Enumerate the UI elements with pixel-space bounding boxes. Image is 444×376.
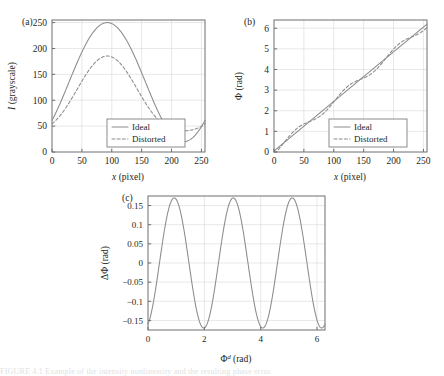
- panel-a-xtick: 150: [135, 156, 150, 166]
- panel-b-tag: (b): [244, 17, 255, 28]
- panel-a-ytick: 50: [38, 121, 48, 131]
- panel-b-legend-label-ideal: Ideal: [354, 122, 372, 132]
- panel-a-ytick: 100: [33, 96, 48, 106]
- panel-c-yaxis-label: ΔΦ (rad): [100, 246, 111, 280]
- panel-c-xtick: 0: [146, 334, 151, 344]
- panel-a-intensity-plot: 050100150200250050100150200250 (a) x (pi…: [0, 0, 222, 188]
- figure-container: 050100150200250050100150200250 (a) x (pi…: [0, 0, 444, 376]
- panel-c-gridlines: [148, 196, 325, 330]
- panel-a-xtick: 0: [50, 156, 55, 166]
- figure-caption-fragment: FIGURE 4.1 Example of the intensity nonl…: [0, 367, 444, 376]
- panel-a-xtick: 250: [194, 156, 209, 166]
- panel-c-svg: (c) Φd (rad) ΔΦ (rad) 02460.150.10.050−0…: [60, 186, 390, 376]
- panel-a-yaxis-label: I (grayscale): [7, 62, 18, 111]
- panel-b-ytick: 1: [264, 127, 269, 137]
- panel-b-yaxis-label: Φ (rad): [234, 72, 245, 100]
- panel-a-xtick: 50: [77, 156, 87, 166]
- panel-b-ytick: 2: [264, 106, 269, 116]
- panel-a-ytick: 0: [42, 147, 47, 157]
- panel-b-xtick: 200: [386, 156, 401, 166]
- panel-b-xaxis-label: x (pixel): [333, 172, 366, 183]
- panel-a-xtick: 200: [164, 156, 179, 166]
- panel-b-ytick: 3: [264, 85, 269, 95]
- panel-a-legend-label-ideal: Ideal: [132, 122, 150, 132]
- panel-b-ytick: 4: [264, 65, 269, 75]
- panel-b-xtick: 0: [272, 156, 277, 166]
- panel-b-xtick: 250: [416, 156, 431, 166]
- panel-b-legend: Ideal Distorted: [329, 119, 407, 147]
- panel-c-ytick: −0.05: [122, 277, 143, 287]
- panel-a-legend: Ideal Distorted: [107, 119, 185, 147]
- panel-b-xtick: 100: [327, 156, 342, 166]
- panel-a-ytick: 150: [33, 70, 48, 80]
- panel-a-xaxis-label: x (pixel): [111, 172, 144, 183]
- panel-a-svg: 050100150200250050100150200250 (a) x (pi…: [0, 0, 222, 188]
- panel-c-ytick: −0.1: [127, 297, 143, 307]
- panel-c-xtick: 2: [202, 334, 207, 344]
- panel-a-legend-label-distorted: Distorted: [132, 134, 166, 144]
- panel-a-ytick: 250: [33, 18, 48, 28]
- panel-c-xaxis-label: Φd (rad): [220, 353, 251, 366]
- panel-b-ytick: 6: [264, 24, 269, 34]
- panel-c-ytick: 0.1: [132, 220, 143, 230]
- panel-b-phase-plot: 0501001502002500123456 (b) x (pixel) Φ (…: [222, 0, 444, 188]
- panel-c-tick-labels: 02460.150.10.050−0.05−0.1−0.15: [122, 201, 320, 344]
- panel-c-ytick: 0.15: [127, 201, 143, 211]
- panel-c-ytick: −0.15: [122, 316, 143, 326]
- panel-c-xtick: 4: [258, 334, 263, 344]
- panel-b-ytick: 0: [264, 147, 269, 157]
- panel-b-svg: 0501001502002500123456 (b) x (pixel) Φ (…: [222, 0, 444, 188]
- panel-c-ytick: 0: [139, 258, 144, 268]
- panel-a-tag: (a): [22, 17, 33, 28]
- panel-c-ytick: 0.05: [127, 239, 143, 249]
- panel-a-ytick: 200: [33, 44, 48, 54]
- panel-c-phase-error-plot: (c) Φd (rad) ΔΦ (rad) 02460.150.10.050−0…: [60, 186, 390, 376]
- panel-b-xtick: 50: [299, 156, 309, 166]
- panel-a-xtick: 100: [105, 156, 120, 166]
- panel-b-xtick: 150: [357, 156, 372, 166]
- panel-c-xtick: 6: [315, 334, 320, 344]
- panel-b-legend-label-distorted: Distorted: [354, 134, 388, 144]
- panel-b-ytick: 5: [264, 44, 269, 54]
